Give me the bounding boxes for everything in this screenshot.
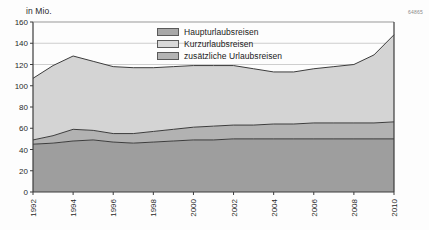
x-tick-label: 1994 xyxy=(69,198,78,216)
y-axis-tick-labels: 020406080100120140160 xyxy=(15,18,29,197)
y-tick-label: 20 xyxy=(19,167,28,176)
legend-item-kurzurlaubsreisen: Kurzurlaubsreisen xyxy=(157,39,282,49)
legend-swatch-zusaetzliche-urlaubsreisen xyxy=(157,52,179,60)
y-tick-label: 120 xyxy=(15,61,29,70)
legend-label-zusaetzliche-urlaubsreisen: zusätzliche Urlaubsreisen xyxy=(184,51,282,61)
x-tick-label: 2004 xyxy=(270,198,279,216)
legend-item-haupturlaubsreisen: Haupturlaubsreisen xyxy=(157,27,282,37)
chart-figure: in Mio. 64865 020406080100120140160 1992… xyxy=(0,0,429,230)
x-tick-label: 2010 xyxy=(390,198,399,216)
x-tick-label: 2008 xyxy=(350,198,359,216)
y-tick-label: 0 xyxy=(24,188,29,197)
legend-label-kurzurlaubsreisen: Kurzurlaubsreisen xyxy=(184,39,253,49)
legend-swatch-kurzurlaubsreisen xyxy=(157,40,179,48)
legend-label-haupturlaubsreisen: Haupturlaubsreisen xyxy=(184,27,259,37)
x-tick-label: 1992 xyxy=(29,198,38,216)
x-tick-label: 2002 xyxy=(230,198,239,216)
band-haupturlaubsreisen xyxy=(33,139,394,192)
x-tick-label: 2000 xyxy=(189,198,198,216)
y-tick-label: 80 xyxy=(19,103,28,112)
y-tick-label: 100 xyxy=(15,82,29,91)
y-tick-label: 60 xyxy=(19,124,28,133)
x-tick-label: 1996 xyxy=(109,198,118,216)
legend-item-zusaetzliche-urlaubsreisen: zusätzliche Urlaubsreisen xyxy=(157,51,282,61)
x-tick-label: 2006 xyxy=(310,198,319,216)
x-tick-label: 1998 xyxy=(149,198,158,216)
y-tick-label: 140 xyxy=(15,39,29,48)
y-tick-label: 160 xyxy=(15,18,29,27)
x-axis-tick-labels: 1992199419961998200020022004200620082010 xyxy=(29,198,399,216)
legend-swatch-haupturlaubsreisen xyxy=(157,28,179,36)
y-tick-label: 40 xyxy=(19,146,28,155)
chart-legend: Haupturlaubsreisen Kurzurlaubsreisen zus… xyxy=(157,27,282,61)
